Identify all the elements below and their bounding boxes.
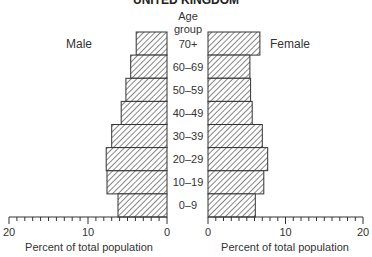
male-bar-2 — [126, 78, 167, 101]
age-group-label: 50–59 — [173, 84, 204, 96]
left-tick-label: 20 — [3, 226, 15, 238]
right-tick-label: 20 — [357, 226, 369, 238]
age-group-label: 0–9 — [179, 199, 197, 211]
female-bar-6 — [208, 171, 264, 194]
female-bar-7 — [208, 194, 255, 217]
female-bar-4 — [208, 125, 262, 148]
male-bars-group — [106, 32, 167, 217]
left-tick-label: 10 — [82, 226, 94, 238]
age-group-label: 20–29 — [173, 153, 204, 165]
female-bar-0 — [208, 32, 260, 55]
age-group-label: 30–39 — [173, 130, 204, 142]
age-group-axis-title-line-1: Age — [178, 10, 198, 22]
male-bar-4 — [112, 125, 167, 148]
right-x-axis-title: Percent of total population — [221, 241, 349, 253]
right-x-axis: 01020 — [205, 217, 369, 238]
chart-title: UNITED KINGDOM — [133, 0, 239, 7]
female-bars-group — [208, 32, 268, 217]
population-pyramid-chart: UNITED KINGDOM Age group Male Female 70+… — [0, 0, 372, 257]
male-bar-3 — [121, 101, 167, 124]
male-bar-1 — [131, 55, 167, 78]
age-group-label: 40–49 — [173, 107, 204, 119]
age-group-label: 60–69 — [173, 61, 204, 73]
legend-male-label: Male — [66, 37, 92, 51]
male-bar-7 — [118, 194, 167, 217]
age-group-label: 10–19 — [173, 176, 204, 188]
male-bar-6 — [107, 171, 167, 194]
right-tick-label: 10 — [279, 226, 291, 238]
age-group-label: 70+ — [179, 38, 198, 50]
right-tick-label: 0 — [205, 226, 211, 238]
male-bar-5 — [106, 148, 167, 171]
left-tick-label: 0 — [164, 226, 170, 238]
female-bar-2 — [208, 78, 251, 101]
male-bar-0 — [136, 32, 167, 55]
age-group-axis-title-line-2: group — [174, 23, 202, 35]
legend-female-label: Female — [270, 37, 310, 51]
female-bar-1 — [208, 55, 250, 78]
age-group-labels: 70+60–6950–5940–4930–3920–2910–190–9 — [173, 38, 204, 212]
left-x-axis: 01020 — [3, 217, 170, 238]
left-x-axis-title: Percent of total population — [25, 241, 153, 253]
female-bar-5 — [208, 148, 268, 171]
female-bar-3 — [208, 101, 252, 124]
